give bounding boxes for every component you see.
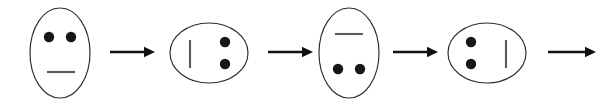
face-oval-outline — [170, 23, 248, 83]
arrow-4-icon — [548, 47, 596, 57]
sequence-canvas — [0, 0, 613, 103]
face-eye-dot-2-icon — [466, 59, 476, 69]
face-oval-outline — [319, 8, 379, 98]
arrow-3-icon — [393, 47, 438, 57]
face-eye-dot-1-icon — [44, 32, 54, 42]
arrow-head — [427, 47, 438, 57]
face-eye-dot-2-icon — [355, 64, 365, 74]
face-270-degrees — [448, 23, 526, 83]
arrow-1-icon — [110, 47, 155, 57]
face-oval-outline — [448, 23, 526, 83]
face-oval-outline — [30, 8, 90, 98]
arrow-head — [585, 47, 596, 57]
rotation-sequence-figure — [0, 0, 613, 103]
face-eye-dot-2-icon — [220, 59, 230, 69]
face-eye-dot-1-icon — [333, 64, 343, 74]
face-0-degrees — [30, 8, 90, 98]
face-eye-dot-2-icon — [66, 32, 76, 42]
face-180-degrees — [319, 8, 379, 98]
face-90-degrees — [170, 23, 248, 83]
arrow-head — [144, 47, 155, 57]
arrow-2-icon — [268, 47, 313, 57]
arrow-head — [302, 47, 313, 57]
face-eye-dot-1-icon — [466, 37, 476, 47]
face-eye-dot-1-icon — [220, 37, 230, 47]
